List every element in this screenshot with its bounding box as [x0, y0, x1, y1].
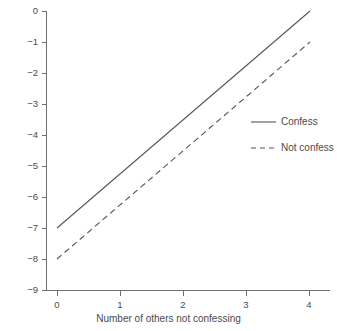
y-tick-label-0: 0 — [10, 6, 38, 16]
x-tick-label-1: 1 — [117, 300, 122, 310]
series-line-not-confess — [57, 42, 310, 259]
y-tick-label-minus-9: −9 — [10, 285, 38, 295]
x-axis-label: Number of others not confessing — [0, 314, 337, 324]
series-line-confess — [57, 11, 310, 228]
y-tick-label-minus-8: −8 — [10, 254, 38, 264]
y-tick-label-minus-6: −6 — [10, 192, 38, 202]
x-tick-label-4: 4 — [306, 300, 311, 310]
line-chart-plot — [0, 0, 337, 331]
y-axis-ticks — [42, 12, 46, 291]
x-tick-label-2: 2 — [180, 300, 185, 310]
y-tick-label-minus-3: −3 — [10, 99, 38, 109]
x-tick-label-3: 3 — [243, 300, 248, 310]
y-tick-label-minus-4: −4 — [10, 130, 38, 140]
chart-figure: 0 −1 −2 −3 −4 −5 −6 −7 −8 −9 0 1 2 3 4 N… — [0, 0, 337, 331]
y-tick-label-minus-5: −5 — [10, 161, 38, 171]
y-tick-label-minus-1: −1 — [10, 37, 38, 47]
legend-label-confess: Confess — [281, 117, 318, 127]
x-axis-ticks — [58, 291, 310, 296]
y-tick-label-minus-2: −2 — [10, 68, 38, 78]
legend-label-not-confess: Not confess — [281, 143, 334, 153]
x-tick-label-0: 0 — [54, 300, 59, 310]
y-tick-label-minus-7: −7 — [10, 223, 38, 233]
